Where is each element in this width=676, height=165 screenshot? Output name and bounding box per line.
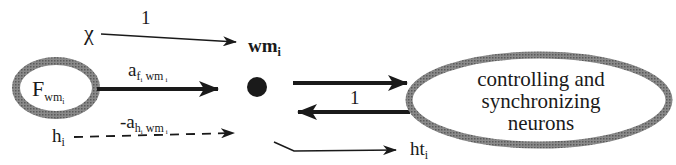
- edge-weight-label: -ahiwmi: [120, 111, 168, 136]
- edge-controller-to-wm: 1: [298, 87, 410, 112]
- wm-node-label: wmi: [248, 35, 282, 59]
- ht-output-label: hti: [410, 138, 429, 162]
- controller-label-line-3: neurons: [508, 111, 575, 135]
- arrow-thin: [274, 142, 396, 151]
- f-ellipse: [16, 61, 96, 115]
- edge-chi-to-wm: χ 1: [83, 7, 236, 45]
- controller-label-line-2: synchronizing: [482, 89, 601, 113]
- edge-wm-to-ht: hti: [274, 138, 429, 162]
- edge-h-to-wm: hi -ahiwmi: [52, 111, 234, 149]
- node-controller: controlling and synchronizing neurons: [409, 55, 669, 145]
- diagram-canvas: χ 1 Fwmi afiwmi hi -ahiwmi wmi: [0, 0, 676, 165]
- edge-f-to-wm: afiwmi: [97, 59, 218, 89]
- node-f-wm: Fwmi: [16, 61, 96, 115]
- wm-dot: [247, 77, 267, 97]
- edge-weight-label: afiwmi: [128, 59, 167, 84]
- node-wm: wmi: [247, 35, 282, 97]
- controller-label-line-1: controlling and: [477, 67, 605, 91]
- arrow-thin: [101, 34, 236, 42]
- edge-weight-label: 1: [350, 87, 360, 108]
- h-input-label: hi: [52, 125, 66, 149]
- edge-weight-label: 1: [141, 7, 151, 28]
- chi-symbol: χ: [83, 20, 94, 45]
